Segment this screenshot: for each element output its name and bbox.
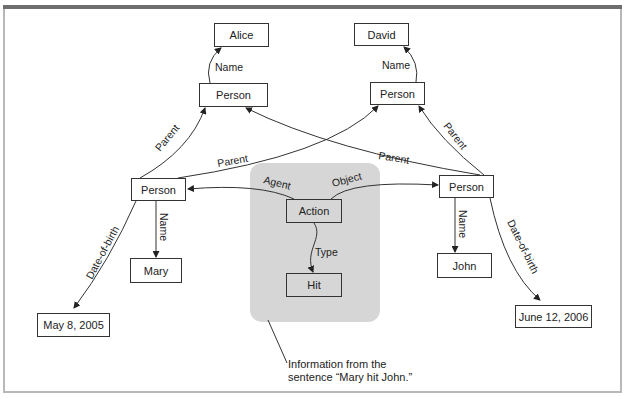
node-action: Action xyxy=(286,199,342,223)
node-alice: Alice xyxy=(214,23,269,47)
label-parent-mary-right: Parent xyxy=(216,152,249,169)
edge-parent-mary-right xyxy=(178,106,378,178)
label-parent-mary-left: Parent xyxy=(152,122,181,153)
node-person-mary: Person xyxy=(131,178,186,201)
label-dob-john: Date-of-birth xyxy=(505,218,541,276)
label-name-mary: Name xyxy=(158,213,170,241)
label-parent-john-left: Parent xyxy=(378,149,411,166)
label-name-david: Name xyxy=(382,59,410,71)
edge-dob-john xyxy=(490,198,540,300)
edge-parent-john-left xyxy=(246,108,480,175)
label-object: Object xyxy=(330,169,362,188)
caption-line-1: Information from the xyxy=(288,358,412,371)
caption: Information from the sentence “Mary hit … xyxy=(288,358,412,384)
label-type: Type xyxy=(315,246,338,258)
caption-leader-line xyxy=(268,320,287,363)
edge-parent-john-right xyxy=(419,106,484,175)
node-person-parent-left: Person xyxy=(199,83,268,107)
label-name-alice: Name xyxy=(215,61,243,73)
label-agent: Agent xyxy=(263,173,293,191)
label-dob-mary: Date-of-birth xyxy=(83,224,121,281)
node-david: David xyxy=(354,23,409,46)
node-hit: Hit xyxy=(286,273,342,297)
node-john: John xyxy=(437,253,492,278)
node-person-john: Person xyxy=(439,175,494,198)
edge-parent-mary-left xyxy=(140,108,205,178)
node-dob-mary: May 8, 2005 xyxy=(37,313,110,337)
edge-agent xyxy=(188,187,294,199)
caption-line-2: sentence “Mary hit John.” xyxy=(288,371,412,384)
node-dob-john: June 12, 2006 xyxy=(515,305,592,328)
label-name-john: Name xyxy=(457,210,469,238)
node-mary: Mary xyxy=(130,258,182,283)
node-person-parent-right: Person xyxy=(370,82,425,105)
edge-object xyxy=(331,184,438,199)
label-parent-john-right: Parent xyxy=(441,120,470,152)
